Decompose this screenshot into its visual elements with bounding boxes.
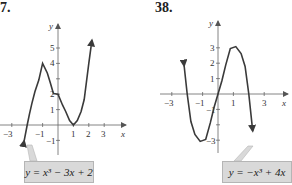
equation-label-7: y = x³ − 3x + 2 [24,161,94,183]
x-axis-label: x [281,98,286,108]
ytick-label--3: −3 [206,136,216,146]
callout-pointer [234,146,253,161]
ytick-label-5: 5 [50,43,55,53]
xtick-label--3: −3 [3,129,13,139]
xtick-label-1: 1 [231,98,236,108]
y-axis-label: y [208,18,213,28]
ytick-label-2: 2 [210,58,215,68]
chart-7: −3 −1 1 2 3 x −1 1 2 4 5 y [0,21,126,161]
ytick-label-1: 1 [50,105,55,115]
xtick-label-3: 3 [101,129,106,139]
xtick-label-2: 2 [86,129,91,139]
x-axis-label: x [120,129,125,139]
ytick-label-4: 4 [50,58,55,68]
ytick-label-1: 1 [210,74,215,84]
xtick-label--1: −1 [35,129,45,139]
y-axis-label: y [48,21,53,31]
equation-label-38: y = −x³ + 4x [222,161,292,183]
xtick-label-3: 3 [262,98,267,108]
xtick-label--1: −1 [195,98,205,108]
chart-38: −3 −1 1 3 x −1 −3 1 2 3 y [160,18,288,161]
ytick-label-3: 3 [210,43,215,53]
callout-pointer [27,145,37,161]
xtick-label-1: 1 [71,129,76,139]
ytick-label--1: −1 [46,136,56,146]
xtick-label--3: −3 [164,98,174,108]
charts-canvas: −3 −1 1 2 3 x −1 1 2 4 5 y [0,0,292,185]
